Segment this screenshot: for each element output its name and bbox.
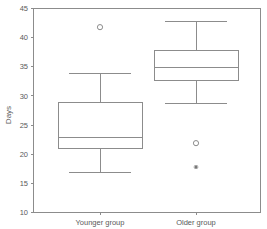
outlier-point [193,141,198,146]
box-iqr [154,50,238,80]
box-iqr [58,102,142,148]
y-axis-title: Days [4,106,13,124]
category-labels: Younger groupOlder group [76,213,216,227]
x-axis-label-1: Younger group [76,218,125,227]
y-tick-label: 45 [20,4,28,13]
x-axis-label-2: Older group [176,218,216,227]
axis-frame-left-bottom [34,9,261,213]
chart-canvas: 1015202530354045 Younger groupOlder grou… [0,0,267,229]
y-tick-label: 35 [20,62,28,71]
extreme-outlier-point [194,165,199,169]
y-axis-ticks: 1015202530354045 [20,4,34,217]
y-tick-label: 40 [20,33,28,42]
y-tick-label: 30 [20,92,28,101]
y-tick-label: 10 [20,208,28,217]
box-plot-1 [58,25,142,173]
outlier-point [97,25,102,30]
box-plots [58,22,238,172]
axis-frame-top-right [34,9,261,213]
axes [34,9,261,213]
y-tick-label: 20 [20,150,28,159]
y-tick-label: 25 [20,121,28,130]
box-plot-2 [154,22,238,169]
y-tick-label: 15 [20,179,28,188]
boxplot-figure: 1015202530354045 Younger groupOlder grou… [0,0,267,229]
